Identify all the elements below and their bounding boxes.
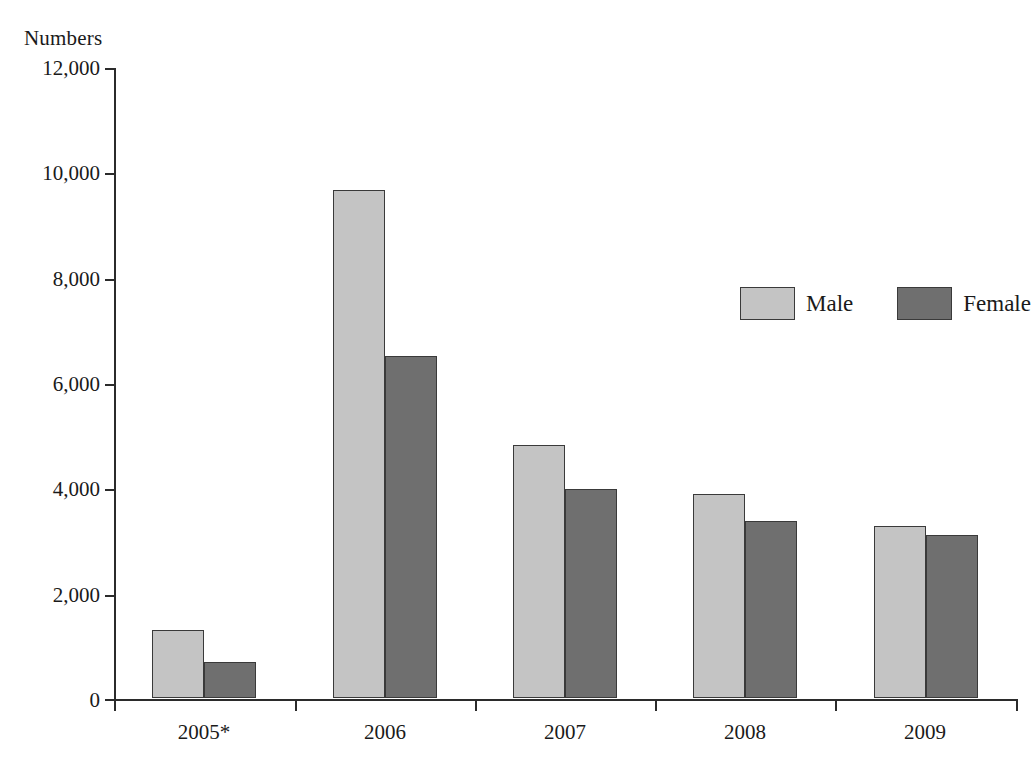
- bar-male-2006: [333, 190, 385, 698]
- legend-swatch-female-icon: [897, 287, 952, 320]
- y-axis-tick: [105, 699, 114, 701]
- bar-female-2008: [745, 521, 797, 698]
- y-tick-label: 2,000: [53, 582, 100, 607]
- x-axis-line: [114, 699, 1018, 701]
- x-axis-tick: [1016, 701, 1018, 711]
- y-axis-line: [114, 68, 116, 701]
- x-axis-tick: [655, 701, 657, 711]
- y-axis-tick: [105, 173, 114, 175]
- y-tick-label: 8,000: [53, 266, 100, 291]
- x-tick-label-2008: 2008: [724, 720, 766, 745]
- y-axis-tick-labels: 12,000 10,000 8,000 6,000 4,000 2,000 0: [0, 68, 100, 700]
- x-axis-tick: [114, 701, 116, 711]
- bar-male-2009: [874, 526, 926, 698]
- bar-male-2008: [693, 494, 745, 698]
- bar-female-2009: [926, 535, 978, 698]
- y-axis-tick: [105, 384, 114, 386]
- y-axis-tick: [105, 279, 114, 281]
- y-tick-label: 4,000: [53, 477, 100, 502]
- x-tick-label-2006: 2006: [364, 720, 406, 745]
- legend-item-male: Male: [740, 287, 853, 320]
- x-axis-tick: [295, 701, 297, 711]
- x-axis-tick: [475, 701, 477, 711]
- legend-swatch-male-icon: [740, 287, 795, 320]
- y-tick-label: 0: [90, 688, 101, 713]
- y-tick-label: 10,000: [42, 161, 100, 186]
- y-tick-label: 6,000: [53, 372, 100, 397]
- bar-chart: Numbers 12,000 10,000 8,000 6,000 4,000 …: [0, 0, 1031, 764]
- y-tick-label: 12,000: [42, 56, 100, 81]
- bar-female-2006: [385, 356, 437, 698]
- legend: Male Female: [740, 287, 1031, 320]
- x-tick-label-2007: 2007: [544, 720, 586, 745]
- x-tick-label-2009: 2009: [904, 720, 946, 745]
- y-axis-title: Numbers: [24, 26, 102, 51]
- plot-area: 2005* 2006 2007 2008 2009: [114, 68, 1018, 700]
- y-axis-tick: [105, 68, 114, 70]
- bar-female-2007: [565, 489, 617, 698]
- x-axis-tick: [835, 701, 837, 711]
- x-tick-label-2005: 2005*: [178, 720, 231, 745]
- legend-item-female: Female: [897, 287, 1031, 320]
- legend-label-female: Female: [963, 291, 1031, 317]
- bar-female-2005: [204, 662, 256, 698]
- bar-male-2005: [152, 630, 204, 698]
- bar-male-2007: [513, 445, 565, 698]
- y-axis-tick: [105, 595, 114, 597]
- y-axis-tick: [105, 489, 114, 491]
- legend-label-male: Male: [806, 291, 853, 317]
